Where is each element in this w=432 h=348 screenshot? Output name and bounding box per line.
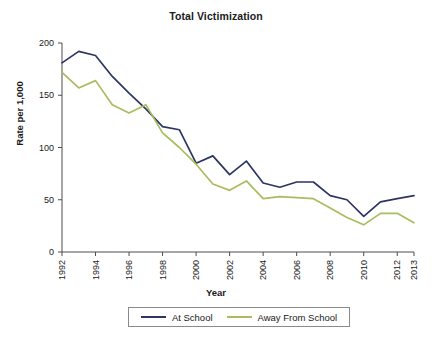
x-tick-label: 2006 bbox=[292, 260, 302, 280]
x-tick-label: 2010 bbox=[359, 260, 369, 280]
y-tick-label: 50 bbox=[44, 195, 54, 205]
legend-label-away-from-school: Away From School bbox=[258, 312, 338, 323]
legend-swatch-at-school bbox=[141, 316, 166, 318]
y-tick-label: 200 bbox=[39, 38, 54, 48]
y-axis-title: Rate per 1,000 bbox=[14, 64, 25, 164]
x-tick-label: 2008 bbox=[325, 260, 335, 280]
x-tick-label: 2002 bbox=[225, 260, 235, 280]
x-tick-label: 2013 bbox=[409, 260, 419, 280]
legend-item-away-from-school: Away From School bbox=[227, 312, 338, 323]
y-tick-label: 0 bbox=[49, 247, 54, 257]
x-axis-title: Year bbox=[0, 287, 432, 298]
y-tick-label: 100 bbox=[39, 143, 54, 153]
legend-label-at-school: At School bbox=[172, 312, 213, 323]
chart-legend: At School Away From School bbox=[128, 307, 350, 327]
x-tick-label: 2004 bbox=[258, 260, 268, 280]
series-line-at-school bbox=[62, 51, 414, 216]
chart-figure: Total Victimization 05010015020019921994… bbox=[0, 0, 432, 348]
legend-swatch-away-from-school bbox=[227, 316, 252, 318]
x-tick-label: 1998 bbox=[158, 260, 168, 280]
x-tick-label: 1994 bbox=[91, 260, 101, 280]
x-tick-label: 2000 bbox=[191, 260, 201, 280]
x-tick-label: 2012 bbox=[392, 260, 402, 280]
legend-item-at-school: At School bbox=[141, 312, 213, 323]
series-line-away-from-school bbox=[62, 72, 414, 225]
y-tick-label: 150 bbox=[39, 90, 54, 100]
x-tick-label: 1996 bbox=[124, 260, 134, 280]
x-tick-label: 1992 bbox=[57, 260, 67, 280]
